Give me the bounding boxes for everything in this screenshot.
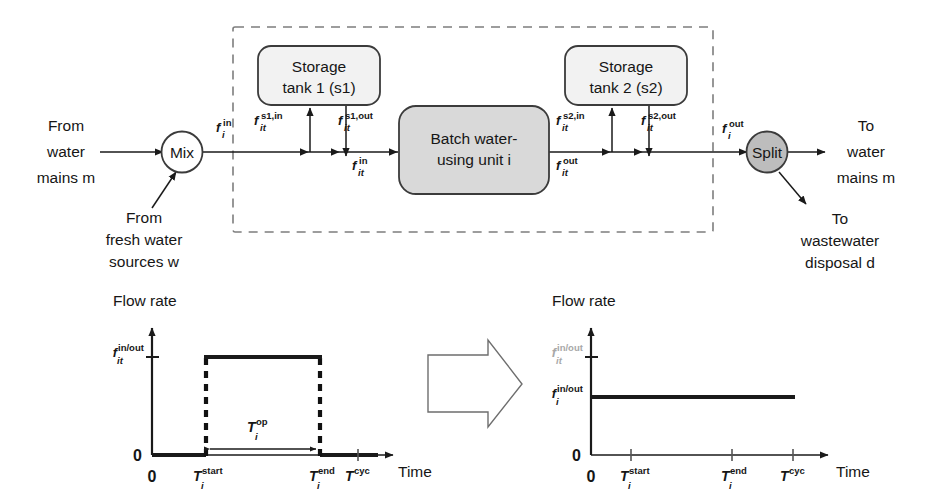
stream-label-f-in-it: f in it	[352, 155, 368, 178]
left-chart-xtick-label-zero: 0	[148, 468, 157, 485]
sink-waste-line3: disposal d	[805, 254, 875, 271]
svg-text:in/out: in/out	[118, 342, 145, 353]
svg-text:i: i	[201, 480, 204, 491]
svg-text:it: it	[647, 122, 654, 133]
right-chart-ytick-label-avg: f in/out i	[552, 383, 584, 407]
svg-text:s1,in: s1,in	[261, 110, 283, 121]
pipe-arrow-tank1-in	[300, 148, 309, 156]
right-chart-xtick-label-tcyc: T cyc	[780, 465, 805, 484]
svg-text:i: i	[556, 396, 559, 407]
storage-tank-1[interactable]	[258, 46, 380, 105]
pipe-arrow-tank2-out	[634, 148, 643, 156]
svg-text:it: it	[562, 122, 569, 133]
pipe-arrow-tank2-in	[602, 148, 611, 156]
batch-unit-label-line1: Batch water-	[430, 130, 517, 147]
source-mains-line3: mains m	[37, 169, 96, 186]
pipe-arrow-unit-in	[389, 148, 398, 156]
left-chart-ytick-label-zero: 0	[133, 447, 142, 464]
source-fresh-line2: fresh water	[106, 231, 183, 248]
stream-label-f-s1-out: f s1,out it	[338, 110, 374, 133]
stream-label-f-s1-in: f s1,in it	[254, 110, 283, 133]
storage-tank-1-label-line1: Storage	[292, 58, 346, 75]
source-fresh-line1: From	[126, 209, 162, 226]
left-chart-ylabel: Flow rate	[113, 292, 177, 309]
svg-text:s2,out: s2,out	[648, 110, 677, 121]
svg-text:end: end	[730, 465, 747, 476]
svg-text:i: i	[728, 130, 731, 141]
svg-text:in/out: in/out	[557, 383, 584, 394]
right-chart-ytick-label-top-muted: f in/out it	[552, 342, 584, 366]
svg-text:i: i	[729, 480, 732, 491]
left-chart-xlabel: Time	[398, 463, 432, 480]
left-chart-xtick-label-tcyc: T cyc	[345, 465, 370, 484]
svg-text:s2,in: s2,in	[563, 110, 585, 121]
svg-text:start: start	[202, 465, 223, 476]
svg-text:in: in	[359, 155, 368, 166]
transformation-arrow	[428, 340, 522, 427]
svg-text:i: i	[222, 129, 225, 140]
svg-text:end: end	[318, 465, 335, 476]
left-chart-ytick-label-top: f in/out it	[113, 342, 145, 366]
svg-text:it: it	[260, 122, 267, 133]
stream-label-f-s2-in: f s2,in it	[556, 110, 585, 133]
svg-text:op: op	[256, 416, 268, 427]
svg-text:start: start	[629, 465, 650, 476]
svg-text:it: it	[556, 355, 563, 366]
svg-text:it: it	[344, 122, 351, 133]
sink-mains-line3: mains m	[837, 169, 896, 186]
storage-tank-2-label-line2: tank 2 (s2)	[589, 79, 662, 96]
batch-unit-label-line2: using unit i	[437, 151, 511, 168]
sink-mains-line1: To	[858, 117, 874, 134]
right-chart-ylabel: Flow rate	[552, 292, 616, 309]
right-chart: Flow rate Time f in/out it f in/out i 0	[552, 292, 870, 491]
stream-label-f-out-i: f out i	[722, 118, 745, 141]
svg-text:it: it	[562, 167, 569, 178]
svg-text:out: out	[729, 118, 745, 129]
diagram-svg: Storage tank 1 (s1) Storage tank 2 (s2) …	[0, 0, 932, 496]
storage-tank-2-label-line1: Storage	[599, 58, 653, 75]
left-chart: Flow rate Time f in/out it 0 T	[113, 292, 432, 491]
right-chart-xlabel: Time	[836, 463, 870, 480]
batch-water-using-unit[interactable]	[399, 106, 549, 194]
source-mains-line1: From	[48, 117, 84, 134]
storage-tank-2[interactable]	[565, 46, 687, 105]
source-mains-line2: water	[46, 143, 85, 160]
svg-text:in/out: in/out	[557, 342, 584, 353]
pipe-arrow-tank1-out	[331, 148, 340, 156]
sink-mains-line2: water	[846, 143, 885, 160]
stream-label-f-out-it: f out it	[556, 155, 579, 178]
svg-text:in: in	[223, 117, 232, 128]
left-chart-xtick-label-tend: T end i	[309, 465, 335, 491]
pipe-fresh-water-in	[152, 172, 176, 208]
right-chart-xtick-label-zero: 0	[587, 468, 596, 485]
svg-text:cyc: cyc	[789, 465, 805, 476]
svg-text:it: it	[358, 167, 365, 178]
split-node-label: Split	[752, 144, 783, 161]
svg-text:i: i	[255, 431, 258, 442]
right-chart-ytick-label-zero: 0	[572, 447, 581, 464]
pipe-split-to-waste	[779, 172, 806, 204]
stream-label-f-in-i: f in i	[216, 117, 232, 140]
storage-tank-1-label-line2: tank 1 (s1)	[282, 79, 355, 96]
svg-text:cyc: cyc	[354, 465, 370, 476]
svg-text:i: i	[628, 480, 631, 491]
svg-text:out: out	[563, 155, 579, 166]
svg-text:i: i	[317, 480, 320, 491]
left-chart-xtick-label-tstart: T start i	[193, 465, 223, 491]
svg-text:it: it	[117, 355, 124, 366]
right-chart-xtick-label-tend: T end i	[721, 465, 747, 491]
sink-waste-line2: wastewater	[800, 232, 879, 249]
figure-canvas: Storage tank 1 (s1) Storage tank 2 (s2) …	[0, 0, 932, 496]
mix-node-label: Mix	[170, 144, 194, 161]
stream-label-f-s2-out: f s2,out it	[641, 110, 677, 133]
right-chart-xtick-label-tstart: T start i	[620, 465, 650, 491]
left-chart-Top-label: T op i	[247, 416, 268, 442]
source-fresh-line3: sources w	[109, 253, 180, 270]
sink-waste-line1: To	[832, 210, 848, 227]
svg-text:s1,out: s1,out	[345, 110, 374, 121]
